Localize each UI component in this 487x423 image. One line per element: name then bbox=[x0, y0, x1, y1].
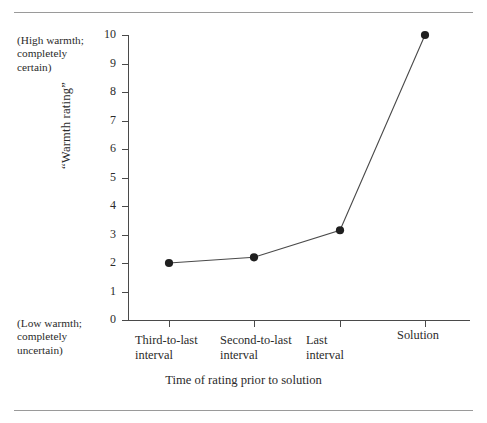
plot-area: 012345678910 Third-to-last intervalSecon… bbox=[128, 35, 470, 320]
y-tick-label-7: 7 bbox=[90, 114, 116, 126]
bottom-horizontal-rule bbox=[14, 410, 473, 411]
data-series-line bbox=[128, 35, 470, 321]
y-tick-label-3: 3 bbox=[90, 228, 116, 240]
x-tick-label-2: Last interval bbox=[306, 333, 392, 362]
x-tick-2 bbox=[340, 321, 341, 327]
x-tick-label-0: Third-to-last interval bbox=[135, 333, 221, 362]
y-tick-label-4: 4 bbox=[90, 199, 116, 211]
y-tick-label-8: 8 bbox=[90, 85, 116, 97]
figure-container: (High warmth; completely certain) (Low w… bbox=[0, 0, 487, 423]
y-tick-label-10: 10 bbox=[90, 28, 116, 40]
y-axis-title: “Warmth rating” bbox=[59, 56, 74, 196]
y-axis-tick-labels: 012345678910 bbox=[90, 35, 116, 321]
x-tick-0 bbox=[169, 321, 170, 327]
y-tick-label-5: 5 bbox=[90, 171, 116, 183]
data-point-2 bbox=[336, 226, 344, 234]
x-tick-3 bbox=[425, 321, 426, 327]
y-tick-label-9: 9 bbox=[90, 57, 116, 69]
top-horizontal-rule bbox=[14, 12, 473, 13]
y-tick-label-2: 2 bbox=[90, 256, 116, 268]
x-axis-title: Time of rating prior to solution bbox=[0, 373, 487, 388]
data-point-1 bbox=[250, 253, 258, 261]
y-tick-label-6: 6 bbox=[90, 142, 116, 154]
x-tick-label-1: Second-to-last interval bbox=[220, 333, 306, 362]
x-tick-1 bbox=[254, 321, 255, 327]
x-tick-label-3: Solution bbox=[397, 328, 483, 343]
data-point-3 bbox=[421, 31, 429, 39]
data-point-0 bbox=[165, 259, 173, 267]
y-tick-label-1: 1 bbox=[90, 285, 116, 297]
y-tick-label-0: 0 bbox=[90, 313, 116, 325]
